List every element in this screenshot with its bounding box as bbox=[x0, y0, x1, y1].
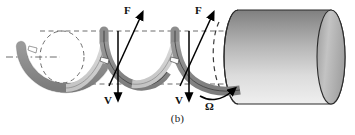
force-label-2: F bbox=[195, 4, 202, 16]
cylinder-end-cap bbox=[317, 10, 345, 104]
ribbon-twist-highlight-0 bbox=[28, 46, 37, 53]
force-arrow-2 bbox=[180, 18, 211, 86]
velocity-label-2: V bbox=[175, 94, 183, 106]
velocity-label-1: V bbox=[104, 94, 112, 106]
force-label-1: F bbox=[124, 4, 131, 16]
dashed-hidden-cylinder-edge bbox=[213, 22, 221, 90]
angular-velocity-label: Ω bbox=[205, 100, 214, 112]
physics-figure-helical-coil-on-cylinder: F F V V Ω (b) bbox=[0, 0, 355, 135]
rotating-cylinder-drum bbox=[224, 10, 345, 104]
figure-caption: (b) bbox=[0, 112, 355, 124]
